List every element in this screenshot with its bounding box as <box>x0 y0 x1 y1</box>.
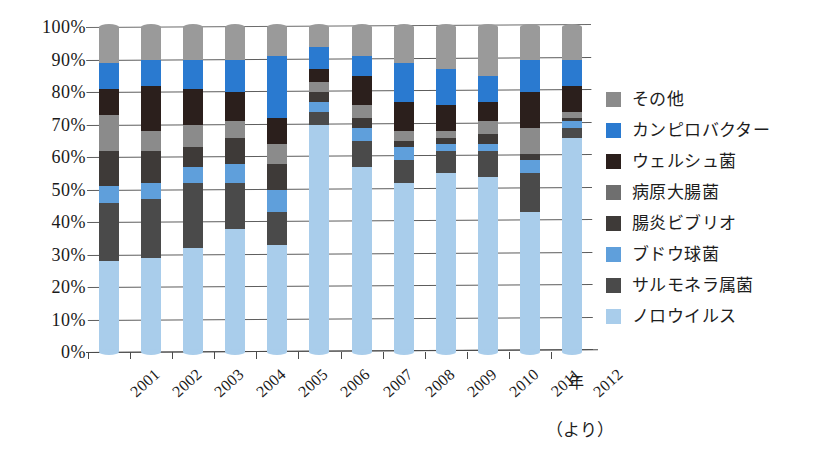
bar-segment[interactable] <box>309 69 329 82</box>
bar-segment[interactable] <box>267 245 287 352</box>
bar-segment[interactable] <box>267 118 287 144</box>
bar-segment[interactable] <box>267 27 287 56</box>
bar-segment[interactable] <box>394 141 414 148</box>
bar-segment[interactable] <box>478 151 498 177</box>
bar-segment[interactable] <box>436 138 456 145</box>
bar-segment[interactable] <box>267 164 287 190</box>
bar-segment[interactable] <box>183 248 203 352</box>
bar-segment[interactable] <box>309 125 329 353</box>
bar-segment[interactable] <box>352 105 372 118</box>
bar-segment[interactable] <box>520 154 540 161</box>
bar-segment[interactable] <box>394 63 414 102</box>
bar-segment[interactable] <box>520 27 540 60</box>
bar-segment[interactable] <box>352 141 372 167</box>
bar-segment[interactable] <box>562 138 582 353</box>
bar-segment[interactable] <box>183 125 203 148</box>
bar-segment[interactable] <box>309 92 329 102</box>
bar-column[interactable] <box>267 27 287 352</box>
bar-segment[interactable] <box>267 212 287 245</box>
bar-segment[interactable] <box>436 173 456 352</box>
bar-segment[interactable] <box>478 177 498 353</box>
bar-segment[interactable] <box>267 144 287 164</box>
bar-segment[interactable] <box>394 27 414 63</box>
bar-segment[interactable] <box>99 261 119 352</box>
bar-segment[interactable] <box>520 212 540 352</box>
bar-segment[interactable] <box>99 203 119 262</box>
bar-segment[interactable] <box>225 121 245 137</box>
bar-segment[interactable] <box>141 86 161 132</box>
bar-segment[interactable] <box>99 63 119 89</box>
bar-segment[interactable] <box>141 199 161 258</box>
bar-segment[interactable] <box>141 258 161 352</box>
bar-segment[interactable] <box>436 131 456 138</box>
bar-column[interactable] <box>225 27 245 352</box>
bar-segment[interactable] <box>183 183 203 248</box>
bar-segment[interactable] <box>141 60 161 86</box>
bar-segment[interactable] <box>309 82 329 92</box>
bar-segment[interactable] <box>352 118 372 128</box>
bar-segment[interactable] <box>394 183 414 352</box>
bar-segment[interactable] <box>267 56 287 118</box>
bar-segment[interactable] <box>183 167 203 183</box>
bar-column[interactable] <box>141 27 161 352</box>
bar-column[interactable] <box>478 27 498 352</box>
bar-segment[interactable] <box>267 190 287 213</box>
bar-segment[interactable] <box>99 27 119 63</box>
bar-segment[interactable] <box>352 167 372 352</box>
bar-segment[interactable] <box>183 27 203 60</box>
bar-segment[interactable] <box>478 144 498 151</box>
bar-segment[interactable] <box>352 27 372 56</box>
bar-segment[interactable] <box>352 76 372 105</box>
bar-segment[interactable] <box>225 92 245 121</box>
bar-column[interactable] <box>436 27 456 352</box>
bar-segment[interactable] <box>309 47 329 70</box>
bar-column[interactable] <box>394 27 414 352</box>
bar-segment[interactable] <box>183 89 203 125</box>
bar-segment[interactable] <box>436 144 456 151</box>
bar-segment[interactable] <box>141 151 161 184</box>
bar-column[interactable] <box>520 27 540 352</box>
bar-segment[interactable] <box>478 76 498 102</box>
bar-segment[interactable] <box>436 27 456 69</box>
bar-segment[interactable] <box>478 121 498 134</box>
bar-segment[interactable] <box>478 102 498 122</box>
bar-column[interactable] <box>183 27 203 352</box>
bar-segment[interactable] <box>99 89 119 115</box>
bar-column[interactable] <box>99 27 119 352</box>
bar-segment[interactable] <box>394 147 414 160</box>
bar-segment[interactable] <box>394 102 414 131</box>
bar-segment[interactable] <box>141 27 161 60</box>
bar-segment[interactable] <box>225 138 245 164</box>
bar-segment[interactable] <box>225 164 245 184</box>
bar-segment[interactable] <box>225 183 245 229</box>
bar-segment[interactable] <box>520 92 540 128</box>
bar-segment[interactable] <box>352 56 372 76</box>
bar-segment[interactable] <box>225 27 245 60</box>
legend-item[interactable]: ブドウ球菌 <box>606 239 822 270</box>
bar-segment[interactable] <box>309 112 329 125</box>
bar-segment[interactable] <box>99 115 119 151</box>
legend-item[interactable]: 腸炎ビブリオ <box>606 208 822 239</box>
bar-segment[interactable] <box>352 128 372 141</box>
bar-segment[interactable] <box>99 186 119 202</box>
legend-item[interactable]: ウェルシュ菌 <box>606 146 822 177</box>
legend-item[interactable]: カンピロバクター <box>606 115 822 146</box>
bar-segment[interactable] <box>436 105 456 131</box>
legend-item[interactable]: サルモネラ属菌 <box>606 270 822 301</box>
bar-segment[interactable] <box>562 128 582 138</box>
legend-item[interactable]: ノロウイルス <box>606 301 822 332</box>
bar-segment[interactable] <box>394 160 414 183</box>
bar-segment[interactable] <box>183 60 203 89</box>
bar-segment[interactable] <box>478 27 498 76</box>
bar-segment[interactable] <box>562 60 582 86</box>
bar-segment[interactable] <box>520 60 540 93</box>
bar-segment[interactable] <box>478 134 498 144</box>
bar-segment[interactable] <box>225 60 245 93</box>
bar-segment[interactable] <box>436 151 456 174</box>
bar-segment[interactable] <box>562 112 582 119</box>
bar-segment[interactable] <box>562 27 582 60</box>
bar-segment[interactable] <box>520 173 540 212</box>
bar-segment[interactable] <box>562 121 582 128</box>
bar-column[interactable] <box>352 27 372 352</box>
bar-segment[interactable] <box>394 131 414 141</box>
